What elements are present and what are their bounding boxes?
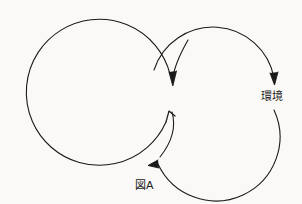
canvas-background [0, 0, 302, 204]
label-environment: 環境 [261, 91, 283, 102]
figure-canvas: 環境 図A [0, 0, 302, 204]
diagram-svg [0, 0, 302, 204]
label-figure-caption: 図A [135, 180, 154, 191]
